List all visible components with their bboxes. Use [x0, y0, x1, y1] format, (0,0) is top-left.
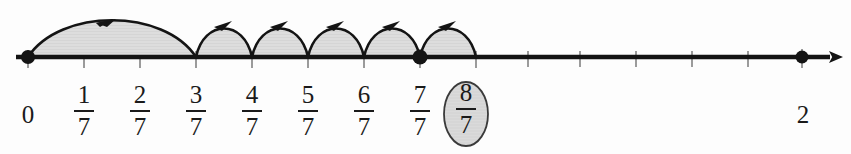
axis-label-2: 2	[783, 102, 823, 127]
axis-label-7-7: 7 7	[398, 82, 442, 139]
axis-label-1-7: 1 7	[62, 82, 106, 139]
point-two	[796, 51, 809, 64]
numerator: 1	[78, 82, 91, 108]
fraction-bar	[186, 110, 206, 112]
numerator: 8	[460, 80, 473, 106]
axis-label-6-7: 6 7	[342, 82, 386, 139]
numerator: 4	[246, 82, 259, 108]
fraction-bar	[456, 108, 476, 110]
fraction-bar	[242, 110, 262, 112]
numerator: 7	[414, 82, 427, 108]
point-zero	[21, 50, 35, 64]
axis-label-4-7: 4 7	[230, 82, 274, 139]
denominator: 7	[78, 114, 91, 140]
axis-label-2-7: 2 7	[118, 82, 162, 139]
axis-label-5-7: 5 7	[286, 82, 330, 139]
denominator: 7	[134, 114, 147, 140]
fraction-bar	[298, 110, 318, 112]
arc-fill-6-7-to-7-7	[364, 29, 420, 58]
denominator: 7	[246, 114, 259, 140]
denominator: 7	[302, 114, 315, 140]
numerator: 5	[302, 82, 315, 108]
arc-fill-0-to-3-7	[28, 20, 196, 57]
point-seven-sevenths	[413, 50, 428, 65]
number-line-figure: 0 1 7 2 7 3 7 4 7 5 7 6 7 7 7 8 7 2	[0, 0, 851, 154]
arc-fill-4-7-to-5-7	[252, 29, 308, 58]
axis-label-8-7-highlighted: 8 7	[444, 80, 488, 137]
denominator: 7	[414, 114, 427, 140]
fraction-bar	[130, 110, 150, 112]
numerator: 2	[134, 82, 147, 108]
numerator: 3	[190, 82, 203, 108]
fraction-bar	[410, 110, 430, 112]
denominator: 7	[460, 112, 473, 138]
arc-fill-7-7-to-8-7	[420, 29, 476, 58]
axis-label-3-7: 3 7	[174, 82, 218, 139]
axis-label-0: 0	[8, 102, 48, 127]
arc-fill-5-7-to-6-7	[308, 29, 364, 58]
denominator: 7	[190, 114, 203, 140]
fraction-bar	[74, 110, 94, 112]
denominator: 7	[358, 114, 371, 140]
numerator: 6	[358, 82, 371, 108]
arc-fill-3-7-to-4-7	[196, 29, 252, 58]
fraction-bar	[354, 110, 374, 112]
